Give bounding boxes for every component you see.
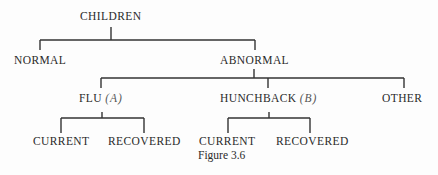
node-children: CHILDREN — [80, 10, 141, 22]
node-hunchback-label: HUNCHBACK — [220, 92, 296, 104]
node-flu-current: CURRENT — [33, 135, 89, 147]
node-normal: NORMAL — [14, 54, 66, 66]
node-hunchback-recovered: RECOVERED — [276, 135, 349, 147]
node-flu-label: FLU — [79, 92, 102, 104]
node-hunchback-current: CURRENT — [199, 135, 255, 147]
node-flu-tag: (A) — [105, 92, 123, 104]
node-other: OTHER — [382, 92, 422, 104]
node-flu-recovered: RECOVERED — [108, 135, 181, 147]
node-hunchback-tag: (B) — [300, 92, 318, 104]
node-hunchback: HUNCHBACK (B) — [220, 92, 317, 104]
figure-caption: Figure 3.6 — [198, 149, 245, 161]
tree-diagram: CHILDREN NORMAL ABNORMAL FLU (A) HUNCHBA… — [0, 0, 438, 175]
node-flu: FLU (A) — [79, 92, 123, 104]
node-abnormal: ABNORMAL — [220, 54, 289, 66]
